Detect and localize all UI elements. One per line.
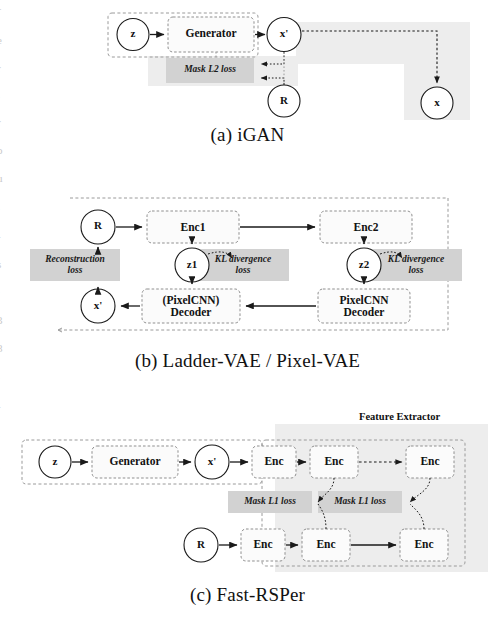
node-c-enc-bottom-3-box (400, 529, 448, 561)
margin-glyph: · (0, 462, 1, 474)
node-b-x-prime (81, 289, 115, 323)
node-c-enc-bottom-1-box (241, 529, 285, 561)
node-a-r (268, 85, 300, 117)
margin-glyph: 3 (0, 314, 3, 326)
node-b-r (81, 210, 115, 244)
loss-c-mask-l1-1-label: Mask L1 loss (228, 496, 312, 507)
loss-a-mask-l2-label: Mask L2 loss (166, 64, 254, 75)
loss-b-reconstruction-label: Reconstruction loss (30, 254, 120, 276)
margin-glyph: · (0, 430, 1, 442)
margin-glyph: e (0, 34, 2, 46)
node-a-x (421, 87, 453, 119)
margin-glyph: 8 (0, 342, 3, 354)
node-c-enc-top-1-box (252, 446, 296, 478)
caption-panel-a: (a) iGAN (0, 124, 495, 146)
node-c-generator-box (92, 446, 178, 478)
margin-glyph: - (0, 400, 1, 412)
node-c-z (39, 446, 71, 478)
loss-b-kl-2-label: KL divergence loss (370, 254, 462, 276)
margin-glyph: r (0, 62, 1, 74)
margin-glyph: s (0, 258, 1, 270)
node-c-x-prime (195, 445, 229, 479)
node-a-z (117, 19, 149, 51)
node-b-enc2-box (320, 211, 412, 243)
margin-glyph: o (0, 144, 3, 156)
loss-b-kl-1-label: KL divergence loss (197, 254, 289, 276)
node-b-pixelcnn-decoder-box (318, 289, 410, 323)
margin-glyph: - (0, 230, 1, 242)
node-a-generator-box (168, 17, 254, 52)
node-c-enc-bottom-2-box (302, 529, 350, 561)
margin-glyph: ʃ (0, 6, 1, 18)
node-c-enc-top-3-box (406, 446, 454, 478)
caption-panel-c: (c) Fast-RSPer (0, 584, 495, 606)
node-c-enc-top-2-box (310, 446, 358, 478)
node-b-enc1-box (147, 211, 239, 243)
node-c-r (184, 528, 218, 562)
figure-architectures: z Generator x' R x Mask L2 loss R Enc1 E… (0, 0, 495, 622)
margin-glyph: · (0, 286, 1, 298)
node-b-pixelcnn-decoder-optional-box (142, 289, 240, 323)
diagram-canvas (0, 0, 495, 622)
node-a-x-prime (267, 18, 301, 52)
panel-c-feature-extractor-label: Feature Extractor (359, 411, 440, 422)
margin-glyph: r (0, 116, 1, 128)
caption-panel-b: (b) Ladder-VAE / Pixel-VAE (0, 350, 495, 372)
margin-glyph: · (0, 372, 1, 384)
margin-glyph: u (0, 172, 3, 184)
loss-c-mask-l1-2-label: Mask L1 loss (318, 496, 402, 507)
